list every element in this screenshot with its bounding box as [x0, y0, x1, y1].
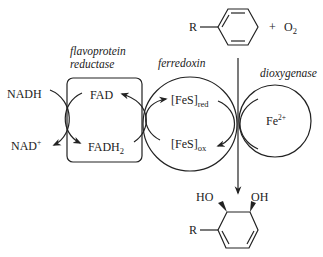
dioxygenase-pathway-diagram: R + O2 flavoprotein reductase ferredoxin…: [0, 0, 323, 257]
ferredoxin-circle: [143, 77, 237, 171]
substrate-r-label: R: [189, 20, 197, 34]
dioxygenase-label: dioxygenase: [260, 67, 317, 80]
fesred-to-fesox-arrow: [218, 101, 235, 146]
plus-sign: +: [269, 20, 276, 34]
o2-label: O2: [284, 20, 297, 36]
ho-label: HO: [196, 190, 214, 204]
ferredoxin-label: ferredoxin: [158, 57, 206, 70]
wedge-bond: [218, 201, 227, 212]
fad-label: FAD: [90, 88, 113, 102]
double-bond: [247, 231, 254, 244]
flavoprotein-label: flavoprotein: [70, 45, 126, 58]
fadh2-label: FADH2: [88, 140, 124, 156]
benzene-ring: [218, 9, 258, 45]
oh-label: OH: [251, 190, 269, 204]
nadh-label: NADH: [7, 87, 42, 101]
product-ring: [218, 212, 258, 248]
nadh-to-nad-arrow: [50, 90, 69, 145]
reductase-label: reductase: [70, 58, 114, 70]
fes-ox-label: [FeS]ox: [171, 137, 207, 153]
nad-label: NAD+: [11, 138, 41, 153]
fesox-to-fesred-arrow: [146, 99, 166, 140]
fes-red-label: [FeS]red: [171, 93, 209, 109]
substrate-benzene: R + O2: [189, 9, 297, 45]
wedge-bond: [250, 201, 256, 212]
product-r-label: R: [189, 223, 197, 237]
fadh2-to-fad-arrow: [122, 94, 146, 142]
fe2-label: Fe2+: [266, 113, 286, 128]
product-dihydrodiol: HO OH R: [189, 190, 269, 248]
fad-to-fadh2-arrow: [65, 93, 82, 143]
